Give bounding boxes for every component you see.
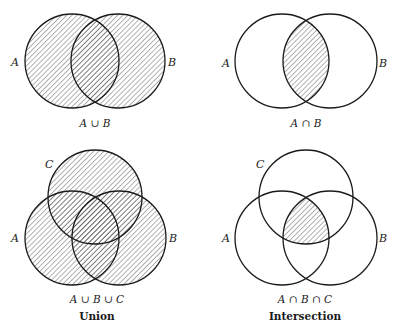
- venn-union-three-sets: C A B A ∪ B ∪ C Union: [10, 150, 177, 322]
- expression-a-union-b: A ∪ B: [79, 117, 111, 129]
- label-a: A: [221, 232, 230, 245]
- label-c: C: [256, 158, 265, 171]
- label-b: B: [168, 232, 177, 245]
- expression-a-intersect-b: A ∩ B: [290, 117, 322, 129]
- expression-a-intersect-b-intersect-c: A ∩ B ∩ C: [277, 293, 332, 305]
- label-a: A: [10, 232, 19, 245]
- label-b: B: [378, 57, 387, 70]
- label-b: B: [167, 56, 176, 69]
- expression-a-union-b-union-c: A ∪ B ∪ C: [69, 293, 124, 305]
- caption-union: Union: [79, 310, 115, 322]
- venn-intersection-two-sets: A B A ∩ B: [221, 14, 387, 129]
- label-a: A: [221, 57, 230, 70]
- caption-intersection: Intersection: [269, 310, 341, 322]
- venn-diagrams-figure: A B A ∪ B A B A ∩ B C A B A ∪ B ∪ C Unio…: [0, 0, 395, 329]
- venn-intersection-three-sets: C A B A ∩ B ∩ C Intersection: [221, 150, 387, 322]
- label-a: A: [10, 56, 19, 69]
- label-b: B: [378, 232, 387, 245]
- venn-union-two-sets: A B A ∪ B: [10, 14, 176, 129]
- label-c: C: [45, 158, 54, 171]
